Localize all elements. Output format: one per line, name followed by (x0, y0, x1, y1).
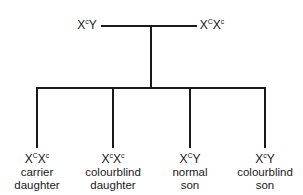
allele-superscript: c (263, 152, 267, 159)
phenotype-text: carrier (0, 166, 77, 179)
allele-base: Y (89, 18, 97, 32)
allele-superscript: c (46, 152, 50, 159)
allele-base: X (213, 18, 221, 32)
offspring-1-drop-line (36, 87, 38, 148)
sibship-line (36, 87, 265, 89)
allele-superscript: C (33, 152, 38, 159)
marriage-line (101, 25, 197, 27)
descent-trunk-line (150, 25, 152, 88)
father-genotype: XcY (77, 19, 97, 33)
offspring-2-genotype: XcXc (101, 153, 124, 167)
allele-superscript: c (85, 18, 89, 25)
offspring-2-drop-line (112, 87, 114, 148)
offspring-1-genotype: XCXc (25, 153, 50, 167)
allele-base: X (255, 152, 263, 166)
sex-text: son (150, 179, 230, 192)
allele-base: Y (267, 152, 275, 166)
allele-superscript: c (221, 18, 225, 25)
offspring-4-drop-line (264, 87, 266, 148)
allele-base: X (25, 152, 33, 166)
sex-text: daughter (73, 179, 153, 192)
allele-superscript: c (121, 152, 125, 159)
offspring-1-label: carrier daughter (0, 166, 77, 191)
allele-base: X (179, 152, 187, 166)
offspring-3-drop-line (189, 87, 191, 148)
offspring-4-label: colourblind son (225, 166, 303, 191)
allele-base: X (101, 152, 109, 166)
phenotype-text: colourblind (73, 166, 153, 179)
offspring-3-genotype: XCY (179, 153, 200, 167)
allele-superscript: c (110, 152, 114, 159)
offspring-4-genotype: XcY (255, 153, 275, 167)
mother-genotype: XCXc (200, 19, 225, 33)
allele-base: X (77, 18, 85, 32)
sex-text: son (225, 179, 303, 192)
offspring-3-label: normal son (150, 166, 230, 191)
allele-superscript: C (187, 152, 192, 159)
sex-text: daughter (0, 179, 77, 192)
phenotype-text: normal (150, 166, 230, 179)
allele-base: X (200, 18, 208, 32)
allele-base: X (113, 152, 121, 166)
allele-base: X (38, 152, 46, 166)
allele-base: Y (193, 152, 201, 166)
offspring-2-label: colourblind daughter (73, 166, 153, 191)
allele-superscript: C (208, 18, 213, 25)
phenotype-text: colourblind (225, 166, 303, 179)
